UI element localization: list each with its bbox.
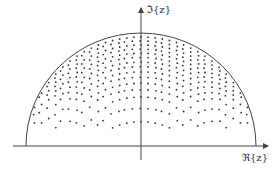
complex-plane-diagram [0,0,280,170]
real-axis-label: ℜ{z} [242,152,268,163]
imaginary-axis-label: ℑ{z} [146,4,171,15]
